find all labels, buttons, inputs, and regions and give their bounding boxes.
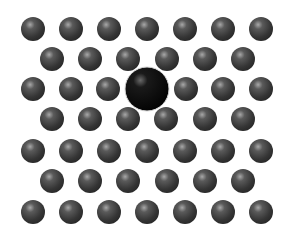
lattice-atom — [231, 107, 255, 131]
lattice-atom — [211, 77, 235, 101]
lattice-atom — [155, 47, 179, 71]
lattice-atom — [193, 107, 217, 131]
lattice-atom — [211, 200, 235, 224]
lattice-atom — [116, 169, 140, 193]
lattice-atom — [21, 200, 45, 224]
lattice-atom — [249, 17, 273, 41]
lattice-atom — [135, 200, 159, 224]
lattice-atom — [78, 169, 102, 193]
lattice-atom — [78, 107, 102, 131]
lattice-atom — [40, 169, 64, 193]
impurity-atom — [125, 67, 169, 111]
lattice-atoms — [21, 17, 273, 224]
lattice-atom — [211, 17, 235, 41]
lattice-atom — [249, 139, 273, 163]
lattice-atom — [97, 139, 121, 163]
lattice-atom — [135, 17, 159, 41]
lattice-atom — [174, 77, 198, 101]
lattice-atom — [154, 107, 178, 131]
lattice-atom — [173, 17, 197, 41]
lattice-atom — [40, 107, 64, 131]
lattice-atom — [155, 169, 179, 193]
lattice-atom — [97, 200, 121, 224]
lattice-atom — [211, 139, 235, 163]
lattice-atom — [59, 77, 83, 101]
lattice-atom — [21, 139, 45, 163]
lattice-atom — [135, 139, 159, 163]
lattice-atom — [116, 47, 140, 71]
lattice-atom — [231, 47, 255, 71]
lattice-atom — [193, 47, 217, 71]
lattice-atom — [59, 139, 83, 163]
lattice-atom — [78, 47, 102, 71]
lattice-atom — [231, 169, 255, 193]
lattice-atom — [249, 77, 273, 101]
lattice-atom — [173, 200, 197, 224]
lattice-atom — [173, 139, 197, 163]
lattice-atom — [59, 200, 83, 224]
lattice-atom — [249, 200, 273, 224]
crystal-lattice-diagram — [0, 0, 287, 237]
lattice-atom — [193, 169, 217, 193]
lattice-atom — [116, 107, 140, 131]
lattice-atom — [59, 17, 83, 41]
lattice-atom — [21, 17, 45, 41]
lattice-atom — [21, 77, 45, 101]
lattice-atom — [96, 77, 120, 101]
lattice-atom — [97, 17, 121, 41]
lattice-atom — [40, 47, 64, 71]
